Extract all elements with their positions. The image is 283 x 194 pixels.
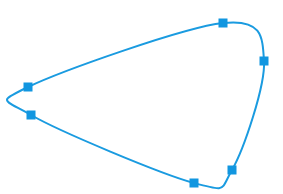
control-point-handle-p3[interactable] — [228, 166, 237, 175]
closed-curve[interactable] — [7, 22, 264, 188]
control-point-handle-p6[interactable] — [24, 83, 33, 92]
control-point-handle-p5[interactable] — [27, 111, 36, 120]
control-point-handle-p2[interactable] — [260, 57, 269, 66]
control-point-handle-p4[interactable] — [190, 179, 199, 188]
spline-canvas[interactable] — [0, 0, 283, 194]
control-point-handle-p1[interactable] — [219, 19, 228, 28]
